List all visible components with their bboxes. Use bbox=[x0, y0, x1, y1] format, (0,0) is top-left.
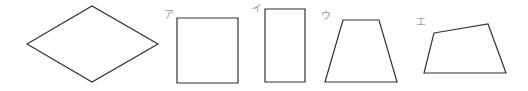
trapezoid-shape bbox=[325, 20, 397, 82]
label-a: ア bbox=[164, 10, 174, 20]
label-i: イ bbox=[252, 4, 262, 14]
square-shape bbox=[177, 18, 238, 83]
label-u: ウ bbox=[321, 11, 331, 21]
rectangle-shape bbox=[265, 9, 305, 82]
label-e: エ bbox=[416, 17, 426, 27]
quadrilateral-shape bbox=[424, 24, 506, 73]
rhombus-shape bbox=[27, 6, 158, 82]
shapes-canvas bbox=[0, 0, 528, 91]
